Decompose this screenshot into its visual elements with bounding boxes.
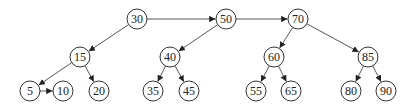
node-60: 60 bbox=[264, 47, 284, 67]
edge-70-to-60 bbox=[280, 27, 293, 48]
node-label: 5 bbox=[27, 84, 33, 98]
node-45: 45 bbox=[179, 81, 199, 101]
edge-70-to-85 bbox=[307, 24, 359, 52]
node-label: 50 bbox=[220, 12, 232, 26]
node-35: 35 bbox=[143, 81, 163, 101]
edge-15-to-20 bbox=[85, 66, 94, 82]
node-label: 30 bbox=[131, 12, 143, 26]
edge-60-to-55 bbox=[261, 66, 269, 82]
node-label: 60 bbox=[268, 50, 280, 64]
node-50: 50 bbox=[216, 9, 236, 29]
node-80: 80 bbox=[341, 81, 361, 101]
node-55: 55 bbox=[246, 81, 266, 101]
node-70: 70 bbox=[288, 9, 308, 29]
node-label: 55 bbox=[250, 84, 262, 98]
node-5: 5 bbox=[20, 81, 40, 101]
node-label: 70 bbox=[292, 12, 304, 26]
tree-diagram: 3050701540608551020354555658090 bbox=[0, 0, 411, 109]
node-85: 85 bbox=[358, 47, 378, 67]
edge-85-to-90 bbox=[373, 66, 381, 82]
node-20: 20 bbox=[89, 81, 109, 101]
node-65: 65 bbox=[281, 81, 301, 101]
node-15: 15 bbox=[70, 47, 90, 67]
node-label: 45 bbox=[183, 84, 195, 98]
node-40: 40 bbox=[160, 47, 180, 67]
edge-85-to-80 bbox=[356, 66, 364, 82]
node-label: 90 bbox=[380, 84, 392, 98]
node-label: 10 bbox=[57, 84, 69, 98]
node-10: 10 bbox=[53, 81, 73, 101]
node-label: 35 bbox=[147, 84, 159, 98]
node-30: 30 bbox=[127, 9, 147, 29]
edge-50-to-40 bbox=[179, 25, 218, 51]
node-label: 40 bbox=[164, 50, 176, 64]
edge-40-to-45 bbox=[175, 66, 184, 82]
nodes-layer: 3050701540608551020354555658090 bbox=[20, 9, 396, 101]
edge-40-to-35 bbox=[158, 66, 166, 82]
edge-60-to-65 bbox=[278, 66, 286, 82]
node-label: 85 bbox=[362, 50, 374, 64]
edge-30-to-15 bbox=[89, 25, 129, 52]
node-label: 20 bbox=[93, 84, 105, 98]
node-90: 90 bbox=[376, 81, 396, 101]
node-label: 15 bbox=[74, 50, 86, 64]
node-label: 80 bbox=[345, 84, 357, 98]
node-label: 65 bbox=[285, 84, 297, 98]
